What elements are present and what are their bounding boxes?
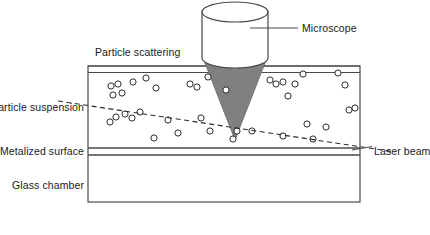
- particle: [292, 81, 298, 87]
- particle: [207, 128, 213, 134]
- particle: [280, 133, 286, 139]
- particle: [323, 124, 329, 130]
- particle: [113, 114, 119, 120]
- diagram-canvas: Particle scattering Microscope Particle …: [0, 0, 430, 235]
- particle: [143, 75, 149, 81]
- label-particle-scattering: Particle scattering: [95, 46, 180, 58]
- particle: [187, 81, 193, 87]
- label-metalized-surface: Metalized surface: [0, 145, 84, 157]
- particle: [130, 79, 136, 85]
- particle: [223, 87, 229, 93]
- particle: [285, 93, 291, 99]
- particle: [119, 90, 125, 96]
- particle: [129, 115, 135, 121]
- schematic-diagram: Particle scattering Microscope Particle …: [0, 0, 430, 235]
- label-laser-beam: Laser beam: [374, 145, 430, 157]
- particle: [175, 130, 181, 136]
- particle: [342, 82, 348, 88]
- particle: [194, 84, 200, 90]
- particle: [107, 119, 113, 125]
- particle: [153, 85, 159, 91]
- cylinder-top-ellipse: [202, 2, 268, 22]
- particle: [110, 92, 116, 98]
- particle: [108, 83, 114, 89]
- particle: [205, 74, 211, 80]
- particle: [198, 115, 204, 121]
- particle: [335, 70, 341, 76]
- particle: [300, 71, 306, 77]
- particle: [230, 136, 236, 142]
- label-microscope: Microscope: [302, 22, 357, 34]
- particle: [280, 79, 286, 85]
- particle: [151, 135, 157, 141]
- particle: [267, 77, 273, 83]
- particle: [115, 81, 121, 87]
- label-particle-suspension: Particle suspension: [0, 101, 84, 113]
- particle: [346, 107, 352, 113]
- particle: [352, 105, 358, 111]
- particle: [304, 121, 310, 127]
- particle: [273, 81, 279, 87]
- label-glass-chamber: Glass chamber: [12, 179, 84, 191]
- microscope-objective: [202, 2, 268, 68]
